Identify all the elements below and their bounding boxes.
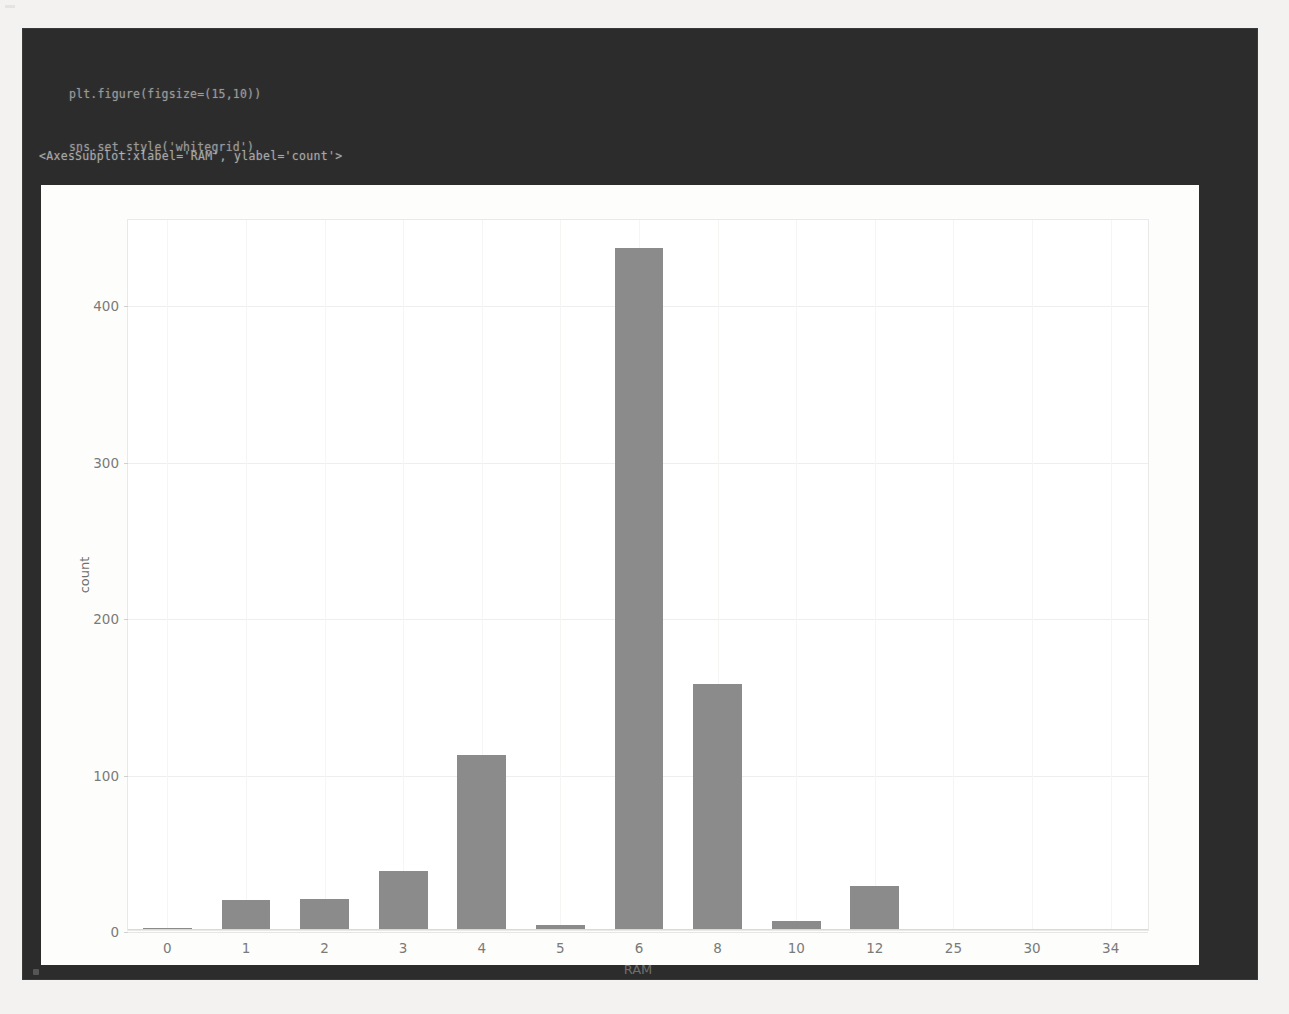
- x-tick-label: 4: [477, 940, 486, 956]
- x-gridline: [875, 220, 876, 930]
- x-axis-label: RAM: [624, 962, 653, 977]
- scan-artifact: [33, 969, 39, 975]
- cell-output-repr: <AxesSubplot:xlabel='RAM', ylabel='count…: [39, 149, 342, 163]
- x-gridline: [325, 220, 326, 930]
- x-gridline: [167, 220, 168, 930]
- x-gridline: [953, 220, 954, 930]
- y-tick-mark: [124, 463, 128, 464]
- y-tick-label: 200: [93, 611, 119, 627]
- y-tick-label: 100: [93, 768, 119, 784]
- bar: [300, 899, 349, 930]
- code-line-1: plt.figure(figsize=(15,10)): [41, 86, 1221, 104]
- y-tick-mark: [124, 776, 128, 777]
- plot-axes: 0100200300400012345681012253034 RAM coun…: [127, 219, 1149, 931]
- y-tick-mark: [124, 306, 128, 307]
- scan-speck: [5, 5, 15, 8]
- x-tick-label: 8: [713, 940, 722, 956]
- bar: [379, 871, 428, 930]
- y-tick-label: 0: [110, 924, 119, 940]
- y-axis-label: count: [77, 557, 92, 594]
- x-tick-label: 10: [788, 940, 805, 956]
- bar: [615, 248, 664, 930]
- x-tick-label: 0: [163, 940, 172, 956]
- matplotlib-figure: 0100200300400012345681012253034 RAM coun…: [41, 185, 1199, 965]
- x-tick-label: 12: [866, 940, 883, 956]
- y-gridline: [128, 932, 1148, 933]
- x-tick-label: 2: [320, 940, 329, 956]
- x-gridline: [1111, 220, 1112, 930]
- y-tick-mark: [124, 619, 128, 620]
- x-gridline: [1032, 220, 1033, 930]
- x-gridline: [560, 220, 561, 930]
- bar: [222, 900, 271, 930]
- bar: [693, 684, 742, 930]
- x-tick-label: 3: [399, 940, 408, 956]
- x-tick-label: 6: [635, 940, 644, 956]
- x-tick-label: 1: [242, 940, 251, 956]
- bar: [850, 886, 899, 930]
- x-axis-spine: [128, 929, 1148, 930]
- x-gridline: [796, 220, 797, 930]
- x-gridline: [246, 220, 247, 930]
- y-tick-mark: [124, 932, 128, 933]
- plot-area: 0100200300400012345681012253034: [128, 220, 1148, 930]
- bar: [457, 755, 506, 930]
- x-tick-label: 5: [556, 940, 565, 956]
- y-tick-label: 300: [93, 455, 119, 471]
- notebook-cell-panel: plt.figure(figsize=(15,10)) sns.set_styl…: [22, 28, 1258, 980]
- x-tick-label: 34: [1102, 940, 1119, 956]
- screenshot-root: plt.figure(figsize=(15,10)) sns.set_styl…: [0, 0, 1289, 1014]
- x-tick-label: 25: [945, 940, 962, 956]
- x-gridline: [403, 220, 404, 930]
- y-tick-label: 400: [93, 298, 119, 314]
- x-tick-label: 30: [1023, 940, 1040, 956]
